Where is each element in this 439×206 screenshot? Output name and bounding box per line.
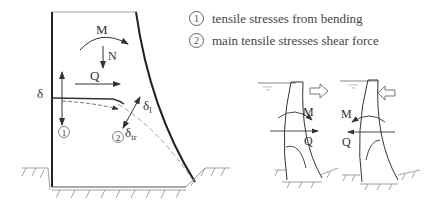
stress-trajectory-dashed (62, 101, 118, 109)
marker-2-text: 2 (116, 133, 121, 143)
moment-label: M (303, 105, 314, 119)
delta-tr-label: δtr (125, 125, 137, 142)
right-face (136, 12, 195, 182)
moment-label: M (96, 22, 108, 37)
wall-section (52, 12, 195, 187)
delta-l-label: δl (143, 98, 152, 115)
principal-stress-arrow (123, 97, 140, 128)
legend-marker: 2 (189, 33, 204, 48)
legend-text: main tensile stresses shear force (212, 33, 379, 48)
delta-label: δ (37, 86, 43, 101)
moment-arrow (352, 116, 385, 122)
normal-force-label: N (108, 49, 117, 63)
legend-marker: 1 (189, 11, 204, 26)
ground-hatching (22, 168, 230, 198)
load-arrow-inward (378, 86, 395, 100)
crack (366, 140, 380, 160)
shear-force-label: Q (90, 68, 100, 83)
shear-label: Q (342, 135, 351, 149)
legend: 1tensile stresses from bending 2main ten… (189, 8, 379, 52)
moment-arrow (80, 37, 128, 50)
shear-label: Q (304, 134, 313, 148)
retaining-wall-inward: M Q (340, 80, 420, 190)
legend-text: tensile stresses from bending (212, 11, 363, 26)
legend-item: 2main tensile stresses shear force (189, 30, 379, 52)
legend-item: 1tensile stresses from bending (189, 8, 379, 30)
load-arrow-outward (310, 84, 328, 98)
marker-1-text: 1 (62, 128, 67, 138)
moment-label: M (341, 107, 352, 121)
crack (286, 146, 306, 168)
retaining-wall-outward: M Q (258, 82, 338, 188)
